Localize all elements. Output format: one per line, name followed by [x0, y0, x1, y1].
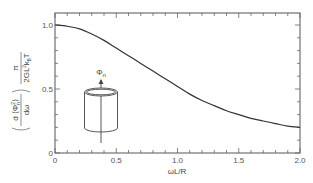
svg-text:0: 0 [49, 149, 54, 158]
x-axis-label: ωL/R [168, 167, 187, 176]
data-curve [55, 25, 300, 127]
y-tick-labels: 00.51.0 [42, 21, 54, 158]
svg-text:0.5: 0.5 [42, 85, 54, 94]
svg-text:π: π [11, 65, 20, 71]
x-tick-labels: 00.51.01.52.0 [53, 156, 306, 165]
svg-text:d ⟨Φ2n⟩: d ⟨Φ2n⟩ [10, 99, 21, 121]
y-axis-label: d ⟨Φ2n⟩ dω π 2GL2kBT [10, 52, 32, 130]
svg-text:dω: dω [22, 105, 31, 116]
svg-text:2.0: 2.0 [294, 156, 306, 165]
cylinder-inset [85, 79, 118, 143]
arrow-icon [99, 79, 104, 84]
inset-label: Φn [96, 68, 106, 78]
svg-text:1.0: 1.0 [172, 156, 184, 165]
svg-text:2GL2kBT: 2GL2kBT [22, 53, 32, 83]
svg-text:1.0: 1.0 [42, 21, 54, 30]
svg-text:0: 0 [53, 156, 58, 165]
svg-text:0.5: 0.5 [111, 156, 123, 165]
svg-text:1.5: 1.5 [233, 156, 245, 165]
chart: 00.51.01.52.0 00.51.0 ωL/R d ⟨Φ2n⟩ dω π … [0, 0, 313, 183]
